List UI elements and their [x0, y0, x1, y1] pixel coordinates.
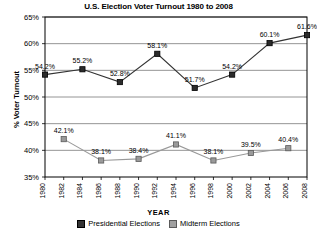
x-tick-label: 2000: [226, 183, 233, 199]
x-tick-label: 1992: [151, 183, 158, 199]
x-tick-label: 2004: [264, 183, 271, 199]
x-tick-label: 1990: [133, 183, 140, 199]
y-tick-label: 35%: [24, 173, 39, 182]
data-point-marker: [173, 142, 178, 147]
legend-item: Presidential Elections: [77, 219, 160, 228]
x-tick-label: 1994: [170, 183, 177, 199]
x-tick-label: 2006: [282, 183, 289, 199]
x-tick-label: 1988: [114, 183, 121, 199]
y-tick-label: 65%: [24, 13, 39, 22]
data-point-label: 39.5%: [241, 141, 261, 148]
y-tick-label: 50%: [24, 93, 39, 102]
data-point-marker: [248, 150, 253, 155]
plot-area: 35%40%45%50%55%60%65% 198019821984198619…: [0, 0, 317, 231]
data-point-marker: [61, 137, 66, 142]
data-point-marker: [267, 41, 272, 46]
legend-label: Presidential Elections: [88, 219, 160, 228]
x-tick-label: 1984: [76, 183, 83, 199]
data-point-label: 38.4%: [129, 147, 149, 154]
data-point-marker: [286, 146, 291, 151]
data-point-label: 61.6%: [297, 23, 317, 30]
x-tick-label: 1996: [189, 183, 196, 199]
legend-swatch-icon: [169, 220, 177, 228]
data-point-marker: [136, 156, 141, 161]
chart-legend: Presidential ElectionsMidterm Elections: [0, 219, 317, 228]
data-point-label: 60.1%: [260, 31, 280, 38]
data-point-marker: [304, 33, 309, 38]
data-point-marker: [230, 72, 235, 77]
data-point-label: 58.1%: [147, 42, 167, 49]
x-axis-ticks: 1980198219841986198819901992199419961998…: [39, 177, 308, 199]
y-tick-label: 40%: [24, 146, 39, 155]
data-point-marker: [99, 158, 104, 163]
x-tick-label: 2008: [301, 183, 308, 199]
data-point-marker: [155, 51, 160, 56]
data-point-label: 54.2%: [35, 63, 55, 70]
data-point-label: 38.1%: [203, 148, 223, 155]
data-point-label: 38.1%: [91, 148, 111, 155]
x-tick-label: 1998: [207, 183, 214, 199]
data-point-label: 41.1%: [166, 132, 186, 139]
data-point-label: 55.2%: [72, 57, 92, 64]
data-point-label: 54.2%: [222, 63, 242, 70]
data-point-label: 42.1%: [54, 127, 74, 134]
legend-item: Midterm Elections: [169, 219, 240, 228]
data-point-marker: [192, 85, 197, 90]
data-series: [42, 33, 309, 164]
x-tick-label: 1980: [39, 183, 46, 199]
data-point-marker: [80, 67, 85, 72]
data-point-label: 52.8%: [110, 70, 130, 77]
y-tick-label: 45%: [24, 119, 39, 128]
legend-label: Midterm Elections: [180, 219, 240, 228]
legend-swatch-icon: [77, 220, 85, 228]
x-axis-title: YEAR: [0, 208, 317, 217]
data-point-marker: [211, 158, 216, 163]
voter-turnout-chart: U.S. Election Voter Turnout 1980 to 2008…: [0, 0, 317, 231]
x-tick-label: 1986: [95, 183, 102, 199]
data-point-marker: [42, 72, 47, 77]
data-point-marker: [117, 79, 122, 84]
x-tick-label: 1982: [58, 183, 65, 199]
y-tick-label: 60%: [24, 39, 39, 48]
data-point-label: 51.7%: [185, 76, 205, 83]
data-point-labels: 54.2%55.2%52.8%58.1%51.7%54.2%60.1%61.6%…: [35, 23, 317, 155]
y-axis-ticks: 35%40%45%50%55%60%65%: [24, 13, 45, 182]
data-point-label: 40.4%: [278, 136, 298, 143]
x-tick-label: 2002: [245, 183, 252, 199]
